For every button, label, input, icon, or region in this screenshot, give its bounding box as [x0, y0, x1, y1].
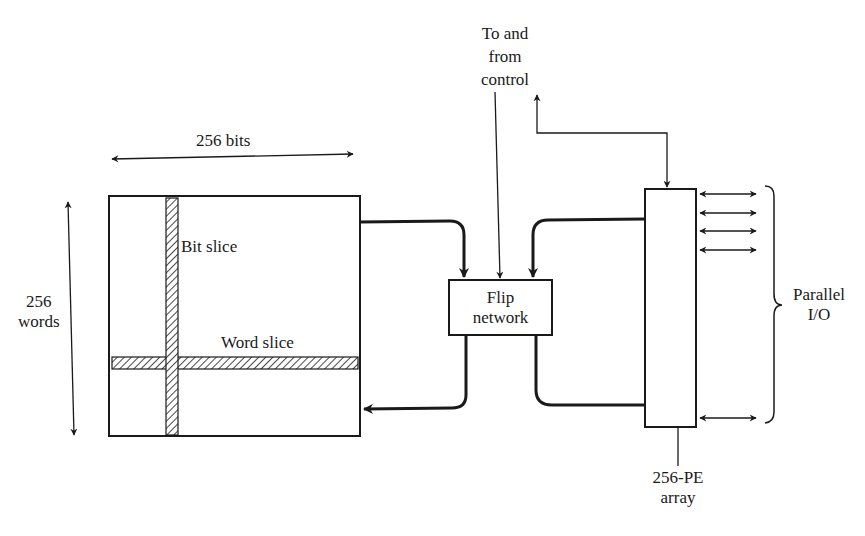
- height-dimension-arrow: [68, 202, 74, 435]
- height-label-line1: 256: [18, 292, 60, 312]
- flip-to-memory-arrow: [364, 335, 466, 409]
- word-slice-label: Word slice: [221, 333, 294, 353]
- parallel-io-line1: Parallel: [784, 285, 854, 305]
- pe-to-flip-arrow: [533, 219, 645, 277]
- parallel-io-line2: I/O: [784, 305, 854, 325]
- width-label: 256 bits: [196, 131, 250, 151]
- height-label: 256 words: [18, 292, 60, 332]
- parallel-io-brace: [765, 186, 782, 423]
- parallel-io-arrows: [700, 194, 756, 418]
- pe-array-box: [645, 189, 696, 427]
- control-line2: from: [470, 45, 540, 68]
- control-line1: To and: [470, 22, 540, 45]
- pe-control-arrow: [537, 95, 667, 187]
- diagram-canvas: [0, 0, 865, 536]
- bit-slice: [166, 198, 178, 435]
- control-line3: control: [470, 68, 540, 91]
- parallel-io-label: Parallel I/O: [784, 285, 854, 325]
- flip-network-line1: Flip: [449, 288, 552, 308]
- width-dimension-arrow: [112, 154, 353, 159]
- pe-array-line2: array: [643, 488, 713, 508]
- height-label-line2: words: [18, 312, 60, 332]
- flip-to-pe-line: [536, 335, 645, 405]
- bit-slice-label: Bit slice: [181, 237, 237, 257]
- word-slice: [112, 357, 358, 369]
- flip-network-label: Flip network: [449, 288, 552, 328]
- memory-to-flip-arrow: [360, 221, 464, 277]
- control-label: To and from control: [470, 22, 540, 91]
- pe-array-line1: 256-PE: [643, 468, 713, 488]
- memory-array: [109, 196, 360, 436]
- pe-array-label: 256-PE array: [643, 468, 713, 508]
- flip-network-line2: network: [449, 308, 552, 328]
- control-to-flip-arrow: [495, 92, 500, 278]
